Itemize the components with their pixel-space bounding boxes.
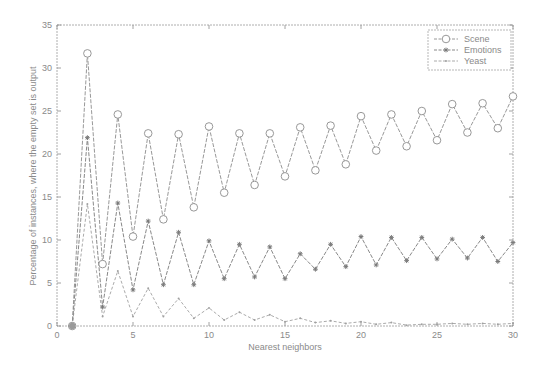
point-marker: [193, 317, 195, 319]
circle-marker: [220, 189, 228, 197]
x-tick-label: 30: [508, 330, 518, 340]
point-marker: [299, 317, 301, 319]
point-marker: [178, 297, 180, 299]
y-tick-label: 0: [47, 321, 52, 331]
asterisk-marker: [131, 287, 136, 292]
asterisk-marker: [444, 48, 449, 53]
asterisk-marker: [161, 282, 166, 287]
circle-marker: [296, 124, 304, 132]
asterisk-marker: [237, 242, 242, 247]
circle-marker: [418, 107, 426, 115]
point-marker: [314, 322, 316, 324]
asterisk-marker: [389, 235, 394, 240]
point-marker: [86, 203, 88, 205]
asterisk-marker: [222, 276, 227, 281]
point-marker: [269, 314, 271, 316]
point-marker: [162, 316, 164, 318]
legend-label: Scene: [464, 34, 490, 44]
asterisk-marker: [267, 244, 272, 249]
series-line: [72, 53, 513, 326]
series-line: [72, 138, 513, 326]
point-marker: [466, 323, 468, 325]
point-marker: [375, 323, 377, 325]
circle-marker: [357, 112, 365, 120]
x-tick-label: 20: [356, 330, 366, 340]
asterisk-marker: [283, 276, 288, 281]
point-marker: [254, 319, 256, 321]
point-marker: [208, 307, 210, 309]
point-marker: [421, 323, 423, 325]
asterisk-marker: [450, 237, 455, 242]
point-marker: [117, 270, 119, 272]
circle-marker: [494, 124, 502, 132]
asterisk-marker: [115, 201, 120, 206]
asterisk-marker: [85, 135, 90, 140]
point-marker: [330, 320, 332, 322]
asterisk-marker: [419, 235, 424, 240]
circle-marker: [129, 233, 137, 241]
asterisk-marker: [435, 257, 440, 262]
x-tick-label: 10: [204, 330, 214, 340]
circle-marker: [372, 147, 380, 155]
x-tick-label: 5: [130, 330, 135, 340]
asterisk-marker: [495, 259, 500, 264]
circle-marker: [190, 204, 198, 212]
circle-marker: [433, 136, 441, 144]
circle-marker: [99, 260, 107, 268]
asterisk-marker: [511, 240, 516, 245]
circle-marker: [342, 161, 350, 169]
x-tick-label: 25: [432, 330, 442, 340]
point-marker: [445, 60, 447, 62]
y-tick-label: 25: [42, 106, 52, 116]
legend-label: Emotions: [464, 45, 502, 55]
asterisk-marker: [207, 238, 212, 243]
asterisk-marker: [146, 219, 151, 224]
legend: SceneEmotionsYeast: [428, 30, 511, 70]
circle-marker: [266, 130, 274, 138]
point-marker: [390, 322, 392, 324]
asterisk-marker: [100, 305, 105, 310]
point-marker: [102, 316, 104, 318]
circle-marker: [175, 130, 183, 138]
circle-marker: [281, 173, 289, 181]
circle-marker: [448, 100, 456, 108]
asterisk-marker: [176, 230, 181, 235]
circle-marker: [84, 50, 92, 58]
asterisk-marker: [359, 234, 364, 239]
series-layer: [68, 50, 516, 330]
point-marker: [451, 322, 453, 324]
point-marker: [345, 322, 347, 324]
point-marker: [238, 311, 240, 313]
circle-marker: [403, 142, 411, 150]
series-scene: [68, 50, 516, 330]
y-tick-label: 30: [42, 63, 52, 73]
y-tick-label: 20: [42, 149, 52, 159]
point-marker: [512, 322, 514, 324]
circle-marker: [251, 181, 259, 189]
series-emotions: [70, 135, 516, 328]
circle-marker: [160, 216, 168, 224]
asterisk-marker: [252, 275, 257, 280]
origin-point-marker: [69, 323, 75, 329]
asterisk-marker: [343, 264, 348, 269]
point-marker: [436, 323, 438, 325]
point-marker: [284, 321, 286, 323]
y-tick-label: 10: [42, 235, 52, 245]
point-marker: [482, 322, 484, 324]
circle-marker: [144, 130, 152, 138]
circle-marker: [464, 129, 472, 137]
point-marker: [406, 324, 408, 326]
asterisk-marker: [298, 251, 303, 256]
circle-marker: [114, 111, 122, 119]
y-axis-label: Percentage of instances, where the empty…: [28, 66, 38, 286]
circle-marker: [327, 122, 335, 130]
point-marker: [223, 319, 225, 321]
circle-marker: [479, 99, 487, 107]
asterisk-marker: [328, 242, 333, 247]
asterisk-marker: [191, 282, 196, 287]
asterisk-marker: [404, 258, 409, 263]
line-chart: 05101520253005101520253035 Nearest neigh…: [0, 0, 542, 368]
y-tick-label: 35: [42, 20, 52, 30]
circle-marker: [388, 111, 396, 119]
x-tick-label: 15: [280, 330, 290, 340]
